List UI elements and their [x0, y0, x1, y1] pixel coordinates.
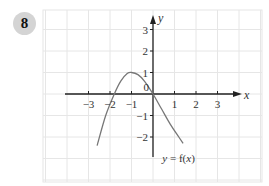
y-tick-label: 2	[143, 45, 149, 57]
x-axis-label: x	[243, 88, 250, 102]
y-tick-label: −2	[136, 131, 148, 143]
y-axis-label: y	[157, 11, 164, 25]
x-tick-label: −2	[104, 98, 116, 110]
labels: −3−2−1123321−1−20xyy = f(x)	[83, 11, 250, 165]
y-tick-label: 1	[143, 67, 149, 79]
y-tick-label: 3	[143, 24, 149, 36]
x-tick-label: 2	[193, 98, 199, 110]
x-tick-label: 1	[172, 98, 178, 110]
function-graph: −3−2−1123321−1−20xyy = f(x)	[0, 0, 269, 186]
axes	[65, 15, 242, 157]
x-tick-label: −3	[83, 98, 95, 110]
y-tick-label: −1	[136, 110, 148, 122]
x-tick-label: 3	[215, 98, 221, 110]
origin-label: 0	[144, 81, 150, 93]
curve-label: y = f(x)	[161, 152, 195, 165]
x-tick-label: −1	[126, 98, 138, 110]
